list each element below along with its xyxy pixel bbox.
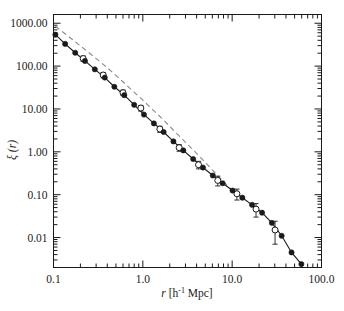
svg-text:1.00: 1.00 — [27, 146, 47, 158]
svg-text:0.1: 0.1 — [46, 273, 61, 285]
figure-container: 0.11.010.0100.0 1000.00100.0010.001.000.… — [0, 0, 344, 311]
correlation-function-plot: 0.11.010.0100.0 1000.00100.0010.001.000.… — [0, 0, 344, 311]
svg-text:100.0: 100.0 — [309, 273, 335, 285]
svg-text:10.00: 10.00 — [22, 103, 48, 115]
svg-text:100.00: 100.00 — [16, 60, 48, 72]
svg-text:0.01: 0.01 — [27, 232, 47, 244]
svg-text:10.0: 10.0 — [222, 273, 242, 285]
svg-text:1000.00: 1000.00 — [10, 17, 48, 29]
figure-background — [0, 0, 344, 311]
x-axis-title: r [h-1 Mpc] — [161, 286, 212, 301]
svg-text:1.0: 1.0 — [136, 273, 151, 285]
y-axis-title: ξ (r) — [6, 140, 19, 160]
svg-text:0.10: 0.10 — [27, 189, 47, 201]
